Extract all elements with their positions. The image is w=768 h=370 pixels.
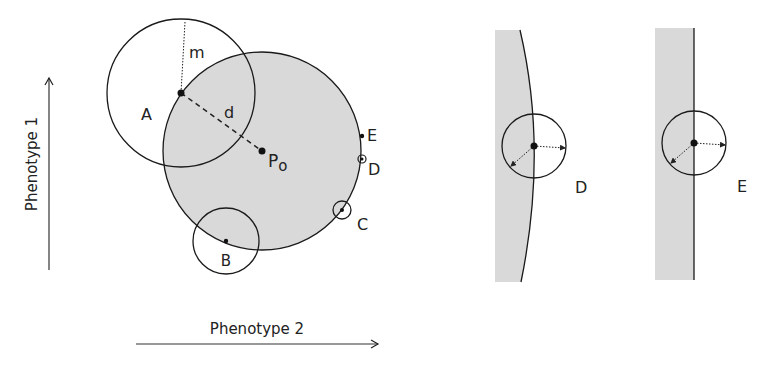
label-b: B xyxy=(221,252,231,270)
label-m: m xyxy=(189,43,205,62)
curved-region-fill xyxy=(495,28,534,284)
mutation-size-line xyxy=(181,22,185,93)
zoom-label-d: D xyxy=(575,178,587,197)
zoom-panel-e: E xyxy=(655,28,747,280)
label-d-point: D xyxy=(368,160,380,179)
point-e-dot xyxy=(360,134,364,138)
zoom-label-e: E xyxy=(737,177,747,196)
optimum-dot xyxy=(259,148,266,155)
optimum-p: P xyxy=(268,151,278,171)
main-panel: m d A B C D E Po xyxy=(107,19,380,274)
x-axis-label: Phenotype 2 xyxy=(210,320,304,338)
zoom-panel-d: D xyxy=(495,28,587,284)
label-a: A xyxy=(141,105,152,124)
point-c-dot xyxy=(340,208,344,212)
point-d-dot xyxy=(361,158,364,161)
zoom-dot-e xyxy=(691,140,698,147)
arrow-right-e xyxy=(694,143,725,145)
fisher-geometric-model-diagram: Phenotype 1 Phenotype 2 m d A B C D E Po xyxy=(0,0,768,370)
optimum-subscript: o xyxy=(278,157,287,175)
arrow-right-d xyxy=(534,146,565,148)
zoom-dot-d xyxy=(531,143,538,150)
point-b-dot xyxy=(224,239,228,243)
y-axis: Phenotype 1 xyxy=(23,78,49,270)
label-d: d xyxy=(224,103,234,122)
point-a-dot xyxy=(178,90,185,97)
y-axis-label: Phenotype 1 xyxy=(23,117,41,211)
label-c: C xyxy=(357,215,368,234)
label-e: E xyxy=(367,126,377,145)
x-axis: Phenotype 2 xyxy=(136,320,378,344)
straight-region-fill xyxy=(655,28,694,280)
